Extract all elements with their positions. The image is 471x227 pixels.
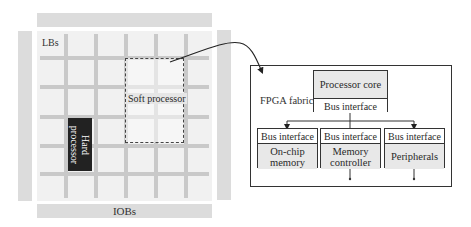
bus-interface-label: Bus interface <box>258 129 317 143</box>
zoom-arrow <box>170 43 262 72</box>
bus-interface-label: Bus interface <box>321 129 380 143</box>
memory-controller-label: Memory controller <box>321 143 380 169</box>
on-chip-memory-block: Bus interface On-chip memory <box>257 128 318 168</box>
memory-controller-block: Bus interface Memory controller <box>320 128 381 168</box>
processor-core-label: Processor core <box>314 71 387 98</box>
peripherals-block: Bus interface Peripherals <box>384 128 445 168</box>
peripherals-label: Peripherals <box>385 143 444 169</box>
fpga-fabric-label: FPGA fabric <box>260 95 313 106</box>
processor-core-block: Processor core Bus interface <box>313 70 388 112</box>
bus-interface-label: Bus interface <box>385 129 444 143</box>
processor-bus-interface: Bus interface <box>314 98 387 113</box>
on-chip-memory-label: On-chip memory <box>258 143 317 169</box>
